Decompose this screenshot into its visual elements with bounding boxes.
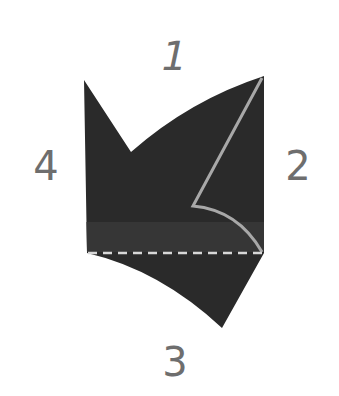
paper-shape: [84, 76, 264, 328]
folded-paper-diagram: 1 2 3 4: [0, 0, 339, 396]
label-top: 1: [156, 32, 192, 79]
label-left: 4: [33, 143, 58, 189]
label-bottom: 3: [162, 339, 187, 385]
label-right: 2: [285, 143, 310, 189]
